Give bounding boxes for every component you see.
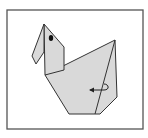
duck-eye bbox=[49, 35, 53, 41]
duck-beak bbox=[32, 24, 44, 64]
duck-head-neck bbox=[44, 24, 64, 75]
origami-duck-diagram bbox=[0, 0, 148, 138]
